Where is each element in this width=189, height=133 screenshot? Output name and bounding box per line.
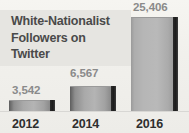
axis-year-label-2014: 2014 <box>72 117 99 131</box>
bar-2012 <box>9 100 55 111</box>
bar-2014-fill <box>70 86 111 111</box>
bar-2016-shadow <box>173 17 178 111</box>
bar-2012-shadow <box>50 100 55 111</box>
bar-2016-fill <box>131 17 173 111</box>
axis-year-label-2016: 2016 <box>136 117 163 131</box>
bar-2012-shell <box>9 100 55 111</box>
bar-2014-shell <box>70 86 116 111</box>
chart-container: White-Nationalist Followers on Twitter 3… <box>0 0 189 133</box>
bar-2014-shadow <box>111 86 116 111</box>
axis-baseline <box>0 111 189 112</box>
chart-title: White-Nationalist Followers on Twitter <box>11 13 129 63</box>
bar-2016 <box>131 17 178 111</box>
bar-value-label-2016: 25,406 <box>133 1 168 13</box>
bar-value-label-2012: 3,542 <box>12 84 40 96</box>
axis-year-label-2012: 2012 <box>12 117 39 131</box>
chart-title-line-2: Followers on <box>11 30 129 47</box>
bar-2012-fill <box>9 100 50 111</box>
bar-2016-shell <box>131 17 178 111</box>
bar-value-label-2014: 6,567 <box>70 67 98 79</box>
chart-title-line-1: White-Nationalist <box>11 13 129 30</box>
chart-title-line-3: Twitter <box>11 46 129 63</box>
bar-2014 <box>70 86 116 111</box>
